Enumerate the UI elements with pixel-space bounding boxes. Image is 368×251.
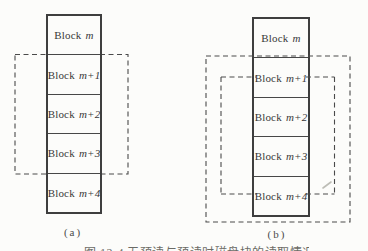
block-b-m: Blockm xyxy=(254,19,308,58)
block-label: Block xyxy=(54,29,81,41)
figure-canvas: Blockm Blockm+1 Blockm+2 Blockm+3 Blockm… xyxy=(0,0,368,251)
block-stack-a: Blockm Blockm+1 Blockm+2 Blockm+3 Blockm… xyxy=(46,14,102,214)
block-a-m4: Blockm+4 xyxy=(48,174,100,212)
block-b-m3: Blockm+3 xyxy=(254,137,308,176)
block-index: m xyxy=(293,32,301,44)
block-index: m xyxy=(86,29,94,41)
block-label: Block xyxy=(255,190,282,202)
block-a-m1: Blockm+1 xyxy=(48,55,100,94)
block-label: Block xyxy=(48,69,75,81)
block-index: m+1 xyxy=(286,72,307,84)
block-b-m2: Blockm+2 xyxy=(254,98,308,137)
block-label: Block xyxy=(48,187,75,199)
block-a-m3: Blockm+3 xyxy=(48,134,100,173)
block-index: m+4 xyxy=(286,190,307,202)
block-index: m+4 xyxy=(79,187,100,199)
block-index: m+3 xyxy=(286,150,307,162)
block-label: Block xyxy=(261,32,288,44)
scan-artifact-mark xyxy=(323,182,331,188)
block-label: Block xyxy=(255,111,282,123)
block-label: Block xyxy=(255,72,282,84)
block-label: Block xyxy=(48,108,75,120)
block-index: m+1 xyxy=(79,69,100,81)
panel-b-label: (b) xyxy=(261,228,293,240)
figure-caption: 图 12-4 无预读与预读时磁盘块的读取情况 xyxy=(84,243,309,251)
block-label: Block xyxy=(48,147,75,159)
block-b-m1: Blockm+1 xyxy=(254,58,308,97)
block-a-m: Blockm xyxy=(48,16,100,55)
block-b-m4: Blockm+4 xyxy=(254,177,308,215)
block-index: m+2 xyxy=(79,108,100,120)
block-a-m2: Blockm+2 xyxy=(48,95,100,134)
panel-a-label: (a) xyxy=(57,226,89,238)
block-stack-b: Blockm Blockm+1 Blockm+2 Blockm+3 Blockm… xyxy=(252,17,310,217)
block-index: m+2 xyxy=(286,111,307,123)
block-label: Block xyxy=(255,150,282,162)
block-index: m+3 xyxy=(79,147,100,159)
